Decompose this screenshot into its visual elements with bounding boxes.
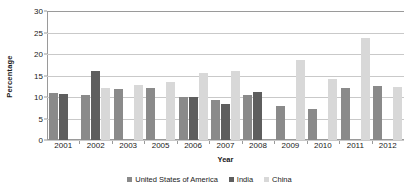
x-axis-tick-label: 2011 xyxy=(339,141,371,153)
legend-label: China xyxy=(272,175,292,184)
bar-group xyxy=(339,11,371,140)
x-axis-tick-label: 2005 xyxy=(144,141,176,153)
bar-usa xyxy=(308,109,317,140)
bar-group xyxy=(209,11,241,140)
x-axis-tick-label: 2012 xyxy=(372,141,404,153)
bar-chart: Percentage 051015202530 2001200220032005… xyxy=(0,0,419,194)
x-axis-tickmark xyxy=(339,141,340,144)
y-axis-tick-label: 0 xyxy=(39,136,43,145)
bar-group xyxy=(307,11,339,140)
bar-usa xyxy=(179,97,188,140)
bar-group xyxy=(372,11,404,140)
x-axis-tick-label: 2006 xyxy=(177,141,209,153)
y-axis-tick-label: 5 xyxy=(39,114,43,123)
y-axis-tick-label: 20 xyxy=(34,50,43,59)
x-axis-tickmark xyxy=(209,141,210,144)
bar-china xyxy=(328,79,337,140)
legend-swatch-icon xyxy=(264,177,269,182)
bar-usa xyxy=(276,106,285,140)
x-axis-tick-label: 2009 xyxy=(274,141,306,153)
bar-usa xyxy=(146,88,155,140)
bar-china xyxy=(393,87,402,140)
x-axis-tick-label: 2001 xyxy=(47,141,79,153)
bar-india xyxy=(59,94,68,140)
bar-india xyxy=(253,92,262,140)
bar-india xyxy=(91,71,100,140)
bar-group xyxy=(144,11,176,140)
bar-usa xyxy=(81,95,90,140)
x-axis-tick-label: 2007 xyxy=(209,141,241,153)
bar-group xyxy=(47,11,79,140)
legend-item[interactable]: United States of America xyxy=(127,175,218,184)
bar-usa xyxy=(243,95,252,140)
x-axis-tick-label: 2008 xyxy=(242,141,274,153)
bar-china xyxy=(199,73,208,140)
bar-india xyxy=(189,97,198,140)
legend-item[interactable]: China xyxy=(264,175,292,184)
bar-china xyxy=(101,88,110,140)
x-axis-tickmark xyxy=(274,141,275,144)
legend-swatch-icon xyxy=(229,177,234,182)
bar-china xyxy=(231,71,240,140)
plot-area: 051015202530 xyxy=(47,11,404,140)
bar-china xyxy=(361,38,370,140)
x-axis-tickmark xyxy=(372,141,373,144)
bar-usa xyxy=(373,86,382,140)
y-axis-tick-label: 10 xyxy=(34,93,43,102)
y-axis-tick-label: 25 xyxy=(34,28,43,37)
y-axis-title: Percentage xyxy=(2,36,16,116)
x-axis-tick-label: 2003 xyxy=(112,141,144,153)
x-axis-tickmark xyxy=(307,141,308,144)
bar-china xyxy=(166,82,175,140)
y-axis-tick-label: 30 xyxy=(34,7,43,16)
y-axis-tick-label: 15 xyxy=(34,71,43,80)
x-axis-tick-label: 2010 xyxy=(307,141,339,153)
x-axis-tickmark xyxy=(242,141,243,144)
legend-swatch-icon xyxy=(127,177,132,182)
bar-india xyxy=(221,104,230,140)
bar-china xyxy=(296,60,305,140)
x-axis-tickmark xyxy=(79,141,80,144)
bar-usa xyxy=(49,93,58,140)
chart-legend: United States of AmericaIndiaChina xyxy=(0,175,419,184)
x-axis-title: Year xyxy=(47,155,404,164)
legend-label: India xyxy=(237,175,253,184)
x-axis-tickmark xyxy=(177,141,178,144)
bar-usa xyxy=(114,89,123,140)
x-axis-tickmark xyxy=(112,141,113,144)
legend-label: United States of America xyxy=(135,175,218,184)
bar-group xyxy=(177,11,209,140)
bar-groups xyxy=(47,11,404,140)
bar-group xyxy=(274,11,306,140)
legend-item[interactable]: India xyxy=(229,175,253,184)
bar-usa xyxy=(211,100,220,140)
bar-group xyxy=(112,11,144,140)
bar-group xyxy=(79,11,111,140)
x-axis-tickmark xyxy=(144,141,145,144)
bar-usa xyxy=(341,88,350,140)
x-axis-tick-label: 2002 xyxy=(79,141,111,153)
bar-group xyxy=(242,11,274,140)
x-axis-tick-labels: 2001200220032005200620072008200920102011… xyxy=(47,141,404,153)
bar-china xyxy=(134,85,143,140)
